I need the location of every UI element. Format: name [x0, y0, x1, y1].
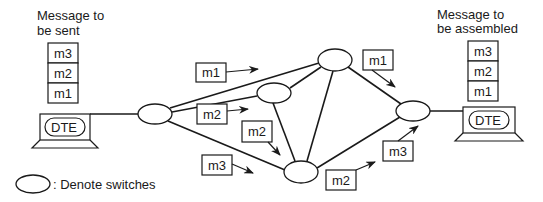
arrow-icon	[226, 69, 258, 72]
switch-node	[257, 83, 291, 103]
packet-label: m2	[332, 173, 350, 188]
packet-label: m2	[248, 124, 266, 139]
link-smid-sbot	[273, 103, 295, 161]
packet-label: m1	[369, 53, 387, 68]
left-title-line2: be sent	[37, 23, 80, 38]
arrow-icon	[356, 162, 375, 170]
arrow-icon	[398, 126, 418, 141]
dte-left-label: DTE	[51, 120, 77, 135]
switch-node	[318, 49, 352, 71]
arrow-icon	[232, 164, 253, 173]
left-message-stack: m3 m2 m1	[48, 43, 78, 103]
arrow-icon	[268, 142, 280, 155]
legend: : Denote switches	[16, 175, 156, 193]
stack-left-m1: m1	[54, 86, 72, 101]
packet-label: m3	[389, 144, 407, 159]
dte-right-label: DTE	[475, 113, 501, 128]
right-title-line2: be assembled	[437, 21, 518, 36]
packet-label: m2	[203, 107, 221, 122]
link-stop-sbot	[307, 71, 333, 161]
terminal-base	[32, 140, 98, 148]
legend-switch-icon	[16, 175, 50, 193]
packet-label: m3	[208, 158, 226, 173]
switch-node	[284, 161, 318, 183]
stack-left-m3: m3	[54, 46, 72, 61]
stack-right-m2: m2	[474, 64, 492, 79]
switch-node	[138, 104, 172, 124]
left-dte-terminal: DTE	[32, 114, 98, 148]
right-title-line1: Message to	[437, 7, 504, 22]
legend-text: : Denote switches	[53, 177, 156, 192]
switch-node	[396, 101, 430, 121]
arrow-icon	[372, 70, 395, 87]
stack-left-m2: m2	[54, 66, 72, 81]
right-dte-terminal: DTE	[455, 107, 523, 141]
right-message-stack: m3 m2 m1	[468, 41, 498, 101]
packet-label: m1	[202, 65, 220, 80]
stack-right-m3: m3	[474, 44, 492, 59]
terminal-base	[455, 133, 523, 141]
packet-switching-diagram: Message to be sent m3 m2 m1 DTE Message …	[0, 0, 543, 202]
arrow-icon	[227, 109, 248, 111]
left-title-line1: Message to	[37, 8, 104, 23]
stack-right-m1: m1	[474, 84, 492, 99]
